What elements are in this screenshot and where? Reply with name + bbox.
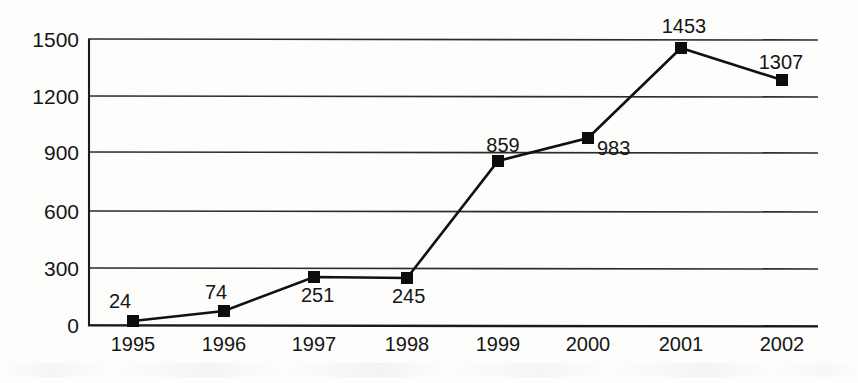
xtick-label-1995: 1995 xyxy=(111,333,156,355)
xtick-label-1998: 1998 xyxy=(385,333,430,355)
data-label-1998: 245 xyxy=(392,285,425,307)
xtick-label-2002: 2002 xyxy=(760,333,805,355)
data-point-marker-1995[interactable] xyxy=(127,315,139,327)
xtick-label-1999: 1999 xyxy=(476,333,521,355)
gridline-300 xyxy=(88,268,818,269)
xtick-label-1997: 1997 xyxy=(292,333,337,355)
data-label-2001: 1453 xyxy=(662,15,707,37)
xtick-label-2001: 2001 xyxy=(659,333,704,355)
data-point-marker-1997[interactable] xyxy=(308,271,320,283)
gridlines xyxy=(88,39,818,326)
ytick-label-600: 600 xyxy=(44,200,79,223)
xtick-label-2000: 2000 xyxy=(566,333,611,355)
data-point-marker-2002[interactable] xyxy=(776,74,788,86)
y-axis-tick-labels: 1500 1200 900 600 300 0 xyxy=(32,28,79,337)
data-point-marker-1996[interactable] xyxy=(218,305,230,317)
data-point-marker-2000[interactable] xyxy=(582,132,594,144)
series-line xyxy=(133,48,782,321)
ytick-label-0: 0 xyxy=(67,314,79,337)
gridline-1200 xyxy=(88,96,818,97)
chart-plot-area: 1500 1200 900 600 300 0 24 74 251 245 85… xyxy=(0,0,858,383)
gridline-1500 xyxy=(88,39,818,40)
ytick-label-300: 300 xyxy=(44,257,79,280)
data-label-2000: 983 xyxy=(597,137,630,159)
x-axis-tick-labels: 1995 1996 1997 1998 1999 2000 2001 2002 xyxy=(111,333,805,355)
data-label-1995: 24 xyxy=(109,290,131,312)
data-label-2002: 1307 xyxy=(759,51,804,73)
ytick-label-1200: 1200 xyxy=(32,85,79,108)
ytick-label-1500: 1500 xyxy=(32,28,79,51)
data-label-1997: 251 xyxy=(301,284,334,306)
xtick-label-1996: 1996 xyxy=(202,333,247,355)
gridline-600 xyxy=(88,211,818,212)
line-chart: 1500 1200 900 600 300 0 24 74 251 245 85… xyxy=(0,0,858,383)
x-axis-spine xyxy=(88,326,818,327)
data-point-marker-2001[interactable] xyxy=(675,42,687,54)
gridline-900 xyxy=(88,152,818,153)
data-label-1999: 859 xyxy=(486,134,519,156)
data-label-1996: 74 xyxy=(205,281,227,303)
ytick-label-900: 900 xyxy=(44,141,79,164)
data-point-marker-1999[interactable] xyxy=(492,155,504,167)
data-point-marker-1998[interactable] xyxy=(401,272,413,284)
